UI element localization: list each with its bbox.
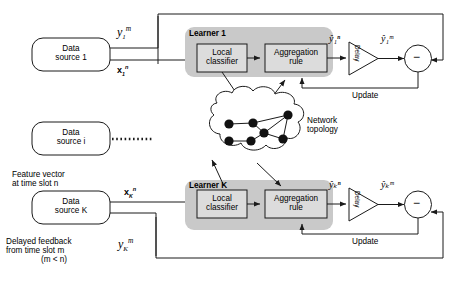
learner1-lc-line1: Local [197, 48, 247, 57]
signal-y1m-sub: 1 [122, 33, 125, 41]
signal-yKm-sup: m [128, 236, 133, 245]
delayed-feedback-line1: Delayed feedback [6, 237, 102, 246]
learnerK-pred-in-label: ŷₖⁿ [329, 179, 341, 190]
learnerK-local-classifier-label: Local classifier [197, 194, 247, 212]
delayed-feedback-line3: (m < n) [6, 255, 102, 264]
learner1-agg-line1: Aggregation [265, 48, 327, 57]
signal-xKn-sup: n [133, 186, 136, 192]
data-source-i-label: Data source i [32, 128, 110, 146]
learnerK-title: Learner K [189, 181, 227, 190]
signal-x1n-sub: 1 [122, 71, 125, 77]
learner1-delay-label: Delay [354, 45, 361, 61]
learner1-update-label: Update [352, 91, 378, 100]
network-topology-label: Network topology [307, 116, 338, 134]
signal-y1m-sup: m [126, 24, 131, 33]
data-source-K-label: Data source K [32, 197, 110, 215]
delayed-feedback-annotation: Delayed feedback from time slot m (m < n… [6, 237, 102, 265]
network-label-line1: Network [307, 116, 338, 125]
signal-x1n-sup: n [125, 64, 128, 70]
diagram-canvas: Data source 1 Data source i Data source … [0, 0, 459, 283]
learner1-local-classifier-label: Local classifier [197, 48, 247, 66]
learner1-agg-line2: rule [265, 57, 327, 66]
data-source-i-line2: source i [32, 137, 110, 146]
network-label-line2: topology [307, 125, 338, 134]
data-source-1-line2: source 1 [32, 53, 110, 62]
data-source-K-line1: Data [32, 197, 110, 206]
signal-x1n-label: x1n [117, 64, 128, 78]
learnerK-agg-line1: Aggregation [265, 194, 327, 203]
feature-vector-annotation: Feature vector at time slot n [12, 170, 65, 188]
learnerK-sum-sign: − [413, 197, 420, 210]
learnerK-lc-line2: classifier [197, 203, 247, 212]
learner1-title: Learner 1 [189, 29, 226, 38]
learner1-pred-in-label: ŷ₁ⁿ [329, 33, 340, 44]
feature-vector-line2: at time slot n [12, 179, 65, 188]
data-source-1-label: Data source 1 [32, 44, 110, 62]
signal-yKm-label: yKm [118, 237, 133, 254]
signal-xKn-label: xKn [124, 186, 136, 200]
feature-vector-line1: Feature vector [12, 170, 65, 179]
data-source-1-line1: Data [32, 44, 110, 53]
data-source-K-line2: source K [32, 206, 110, 215]
learnerK-pred-out-label: ŷₖᵐ [381, 179, 394, 190]
learner1-sum-sign: − [413, 51, 420, 64]
delayed-feedback-line2: from time slot m [6, 246, 102, 255]
learner1-aggregation-label: Aggregation rule [265, 48, 327, 66]
learnerK-agg-line2: rule [265, 203, 327, 212]
learnerK-delay-label: Delay [354, 191, 361, 207]
learnerK-aggregation-label: Aggregation rule [265, 194, 327, 212]
learner1-lc-line2: classifier [197, 57, 247, 66]
learnerK-update-label: Update [352, 237, 378, 246]
signal-yKm-sub: K [123, 245, 128, 253]
data-source-i-line1: Data [32, 128, 110, 137]
signal-y1m-label: y1m [117, 25, 131, 42]
signal-xKn-sub: K [129, 193, 133, 199]
learner1-pred-out-label: ŷ₁ᵐ [381, 33, 393, 44]
learnerK-lc-line1: Local [197, 194, 247, 203]
